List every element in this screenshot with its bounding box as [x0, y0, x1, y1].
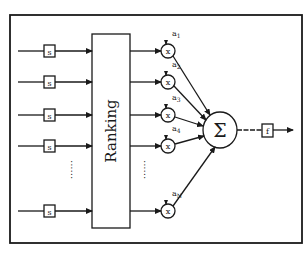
activation-block: f — [262, 124, 273, 137]
sigma-symbol: Σ — [213, 119, 226, 141]
ranking-block: Ranking — [92, 34, 130, 228]
ranking-label: Ranking — [102, 99, 120, 163]
diagram-canvas: Ranking s x a1 s x a2 s x a3 — [0, 0, 306, 254]
weight-label: a2 — [172, 60, 181, 70]
svg-text:s: s — [47, 48, 51, 57]
svg-text:x: x — [166, 111, 171, 120]
svg-text:s: s — [47, 143, 51, 152]
weight-label: aN — [172, 189, 182, 199]
weight-label: a1 — [172, 29, 181, 39]
svg-text:x: x — [166, 207, 171, 216]
summation-node: Σ — [203, 112, 237, 148]
outer-frame — [10, 15, 302, 243]
weight-label: a4 — [172, 124, 181, 134]
svg-text:s: s — [47, 208, 51, 217]
output-ellipsis: ...... — [142, 160, 153, 179]
svg-text:s: s — [47, 79, 51, 88]
svg-text:s: s — [47, 112, 51, 121]
svg-text:x: x — [166, 142, 171, 151]
weight-label: a3 — [172, 93, 181, 103]
input-ellipsis: ...... — [69, 160, 80, 179]
svg-text:x: x — [166, 47, 171, 56]
svg-text:x: x — [166, 78, 171, 87]
svg-text:f: f — [266, 127, 270, 136]
